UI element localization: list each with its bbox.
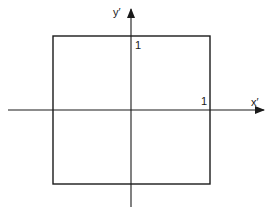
x-tick-label: 1 [201,95,207,107]
x-axis-label: x′ [251,96,259,108]
y-axis-label: y′ [113,6,121,18]
coordinate-diagram: y′ x′ 1 1 [0,0,268,213]
y-tick-label: 1 [135,39,141,51]
